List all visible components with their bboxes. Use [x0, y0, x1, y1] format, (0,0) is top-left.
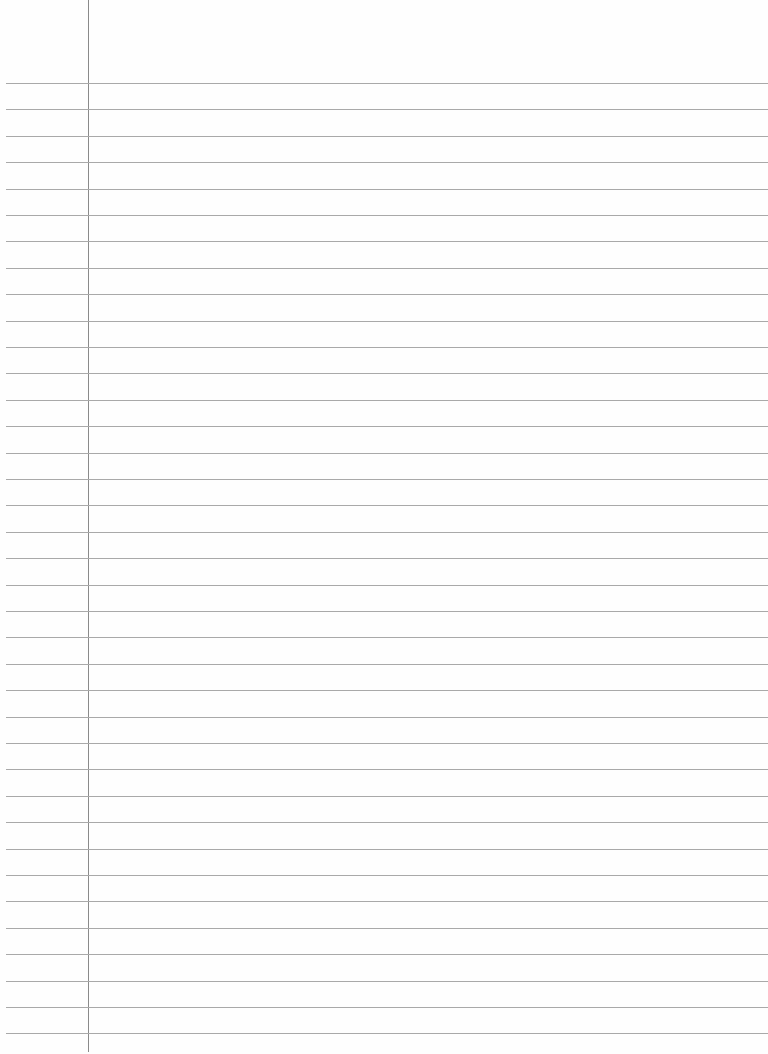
ruled-line	[6, 849, 768, 850]
ruled-line	[6, 796, 768, 797]
ruled-line	[6, 928, 768, 929]
ruled-line	[6, 954, 768, 955]
ruled-line	[6, 215, 768, 216]
ruled-line	[6, 901, 768, 902]
ruled-line	[6, 426, 768, 427]
ruled-line	[6, 347, 768, 348]
ruled-line	[6, 109, 768, 110]
ruled-line	[6, 241, 768, 242]
ruled-line	[6, 294, 768, 295]
ruled-line	[6, 769, 768, 770]
margin-line	[88, 0, 89, 1052]
ruled-line	[6, 189, 768, 190]
ruled-line	[6, 585, 768, 586]
ruled-line	[6, 1007, 768, 1008]
ruled-line	[6, 321, 768, 322]
ruled-line	[6, 637, 768, 638]
ruled-line	[6, 268, 768, 269]
ruled-line	[6, 875, 768, 876]
ruled-line	[6, 400, 768, 401]
ruled-line	[6, 453, 768, 454]
ruled-line	[6, 136, 768, 137]
ruled-line	[6, 558, 768, 559]
ruled-line	[6, 532, 768, 533]
ruled-line	[6, 479, 768, 480]
ruled-line	[6, 373, 768, 374]
ruled-line	[6, 717, 768, 718]
ruled-line	[6, 611, 768, 612]
ruled-line	[6, 83, 768, 84]
lined-paper	[0, 0, 768, 1054]
ruled-line	[6, 981, 768, 982]
ruled-line	[6, 690, 768, 691]
ruled-line	[6, 664, 768, 665]
ruled-line	[6, 162, 768, 163]
ruled-line	[6, 1033, 768, 1034]
ruled-line	[6, 743, 768, 744]
ruled-line	[6, 822, 768, 823]
ruled-line	[6, 505, 768, 506]
